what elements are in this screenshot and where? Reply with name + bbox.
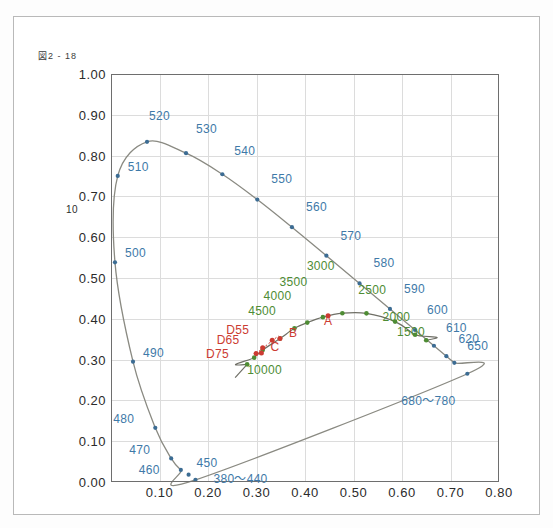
wavelength-label: 480 (113, 412, 134, 426)
x-axis-tick-labels: 0.100.200.300.400.500.600.700.80 (111, 485, 499, 505)
illuminant-marker (260, 345, 265, 350)
wavelength-label: 530 (196, 122, 217, 136)
figure-caption-number: 2 - 18 (48, 51, 77, 61)
cct-marker (424, 338, 429, 343)
figure-frame: 図2 - 18 1.000.900.800.700.600.500.400.30… (13, 16, 540, 515)
wavelength-label: 550 (271, 172, 292, 186)
wavelength-label: 470 (129, 443, 150, 457)
wavelength-label: 580 (374, 256, 395, 270)
illuminant-label: B (289, 326, 297, 340)
y-axis-stray-artifact: 10 (66, 204, 78, 215)
illuminant-label: D75 (206, 347, 229, 361)
wavelength-marker (184, 151, 188, 155)
planckian-locus-extension (235, 364, 247, 377)
wavelength-marker (187, 473, 191, 477)
x-axis-tick-label: 0.10 (146, 485, 173, 500)
cct-marker (305, 320, 310, 325)
illuminant-label: A (324, 314, 332, 328)
wavelength-label: 510 (128, 160, 149, 174)
y-axis-tick-label: 0.10 (54, 434, 106, 449)
wavelength-label: 450 (197, 456, 218, 470)
cct-label: 4500 (248, 304, 276, 318)
y-axis-tick-label: 0.70 (54, 189, 106, 204)
wavelength-marker (116, 174, 120, 178)
y-axis-tick-label: 0.00 (54, 475, 106, 490)
cct-label: 3000 (307, 259, 335, 273)
cct-marker (364, 311, 369, 316)
cct-label: 4000 (264, 289, 292, 303)
wavelength-marker (220, 172, 224, 176)
y-axis-tick-label: 0.20 (54, 393, 106, 408)
screenshot-root: 図2 - 18 1.000.900.800.700.600.500.400.30… (0, 0, 553, 528)
y-axis-tick-label: 0.90 (54, 107, 106, 122)
wavelength-marker (452, 361, 456, 365)
x-axis-tick-label: 0.60 (388, 485, 415, 500)
illuminant-marker (254, 351, 259, 356)
wavelength-label: 560 (306, 200, 327, 214)
figure-caption-glyph: 図 (38, 49, 48, 62)
wavelength-label: 460 (139, 463, 160, 477)
chromaticity-plot-area: 5005105205305405505605705805906006106206… (111, 74, 499, 482)
wavelength-label: 540 (234, 144, 255, 158)
wavelength-marker (444, 354, 448, 358)
wavelength-marker (179, 468, 183, 472)
wavelength-label: 380～440 (213, 469, 267, 486)
cct-label: 2000 (382, 310, 410, 324)
x-axis-tick-label: 0.30 (243, 485, 270, 500)
wavelength-marker (255, 197, 259, 201)
wavelength-label: 650 (467, 339, 488, 353)
wavelength-marker (324, 254, 328, 258)
x-axis-tick-label: 0.50 (340, 485, 367, 500)
wavelength-marker (465, 372, 469, 376)
y-axis-tick-label: 0.30 (54, 352, 106, 367)
y-axis-tick-label: 0.60 (54, 230, 106, 245)
wavelength-label: 590 (404, 282, 425, 296)
wavelength-marker (153, 426, 157, 430)
y-axis-tick-label: 1.00 (54, 67, 106, 82)
cct-marker (252, 355, 257, 360)
wavelength-marker (193, 478, 197, 482)
cct-label: 1500 (397, 325, 425, 339)
x-axis-tick-label: 0.70 (437, 485, 464, 500)
cct-label: 3500 (280, 275, 308, 289)
wavelength-label: 500 (125, 246, 146, 260)
y-axis-tick-label: 0.80 (54, 148, 106, 163)
wavelength-label: 680～780 (401, 391, 455, 408)
illuminant-label: D65 (217, 333, 240, 347)
cct-label: 10000 (247, 363, 282, 377)
figure-caption: 図2 - 18 (38, 49, 77, 62)
wavelength-marker (290, 225, 294, 229)
wavelength-label: 520 (149, 109, 170, 123)
wavelength-marker (169, 456, 173, 460)
cct-label: 2500 (358, 283, 386, 297)
x-axis-tick-label: 0.80 (485, 485, 512, 500)
x-axis-tick-label: 0.40 (291, 485, 318, 500)
y-axis-tick-label: 0.50 (54, 271, 106, 286)
wavelength-marker (131, 360, 135, 364)
wavelength-marker (432, 344, 436, 348)
wavelength-label: 600 (427, 303, 448, 317)
cct-marker (340, 311, 345, 316)
wavelength-label: 570 (340, 229, 361, 243)
wavelength-marker (113, 260, 117, 264)
wavelength-marker (145, 140, 149, 144)
y-axis-tick-label: 0.40 (54, 311, 106, 326)
wavelength-label: 490 (143, 346, 164, 360)
x-axis-tick-label: 0.20 (194, 485, 221, 500)
illuminant-marker (259, 350, 264, 355)
illuminant-label: C (270, 340, 279, 354)
